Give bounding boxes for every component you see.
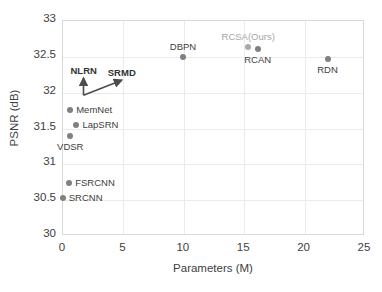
data-point-rdn xyxy=(325,56,331,62)
annotation-label-srmd: SRMD xyxy=(108,67,136,78)
data-point-memnet xyxy=(67,107,73,113)
y-axis-tick-label: 31.5 xyxy=(16,120,56,132)
x-axis-tick-label: 15 xyxy=(223,241,263,253)
data-point-label: RCAN xyxy=(244,54,271,65)
data-point-label: VDSR xyxy=(57,141,83,152)
data-point-label: RCSA(Ours) xyxy=(222,31,275,42)
data-point-label: MemNet xyxy=(76,104,112,115)
gridline-horizontal xyxy=(63,57,363,58)
x-axis-tick-label: 5 xyxy=(102,241,142,253)
data-point-fsrcnn xyxy=(66,180,72,186)
data-point-label: SRCNN xyxy=(69,192,103,203)
scatter-chart-figure: PSNR (dB) Parameters (M) 05101520253030.… xyxy=(0,0,382,292)
y-axis-tick-label: 32 xyxy=(16,84,56,96)
data-point-label: LapSRN xyxy=(82,119,118,130)
gridline-vertical xyxy=(305,21,306,234)
gridline-vertical xyxy=(123,21,124,234)
x-axis-tick-label: 10 xyxy=(163,241,203,253)
x-axis-tick-label: 25 xyxy=(344,241,382,253)
x-axis-tick-label: 0 xyxy=(42,241,82,253)
data-point-lapsrn xyxy=(73,122,79,128)
gridline-horizontal xyxy=(63,164,363,165)
data-point-label: RDN xyxy=(317,64,338,75)
data-point-label: FSRCNN xyxy=(75,177,115,188)
y-axis-tick-label: 33 xyxy=(16,12,56,24)
x-axis-tick-label: 20 xyxy=(284,241,324,253)
gridline-horizontal xyxy=(63,93,363,94)
y-axis-tick-label: 30 xyxy=(16,227,56,239)
y-axis-tick-label: 31 xyxy=(16,155,56,167)
gridline-horizontal xyxy=(63,200,363,201)
data-point-rcan xyxy=(255,46,261,52)
data-point-dbpn xyxy=(180,54,186,60)
y-axis-tick-label: 32.5 xyxy=(16,48,56,60)
x-axis-title: Parameters (M) xyxy=(62,262,364,274)
data-point-rcsaours xyxy=(245,44,251,50)
y-axis-tick-label: 30.5 xyxy=(16,191,56,203)
data-point-vdsr xyxy=(67,133,73,139)
data-point-srcnn xyxy=(60,195,66,201)
data-point-label: DBPN xyxy=(170,41,196,52)
annotation-label-nlrn: NLRN xyxy=(71,65,97,76)
